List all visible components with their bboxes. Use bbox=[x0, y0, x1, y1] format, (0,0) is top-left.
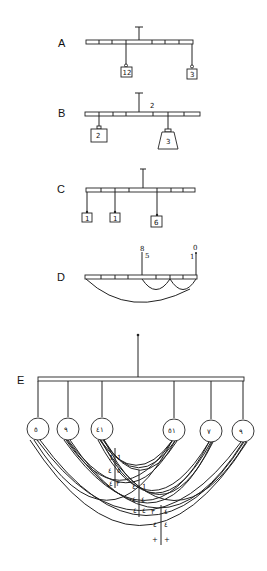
svg-text:٥١: ٥١ bbox=[168, 427, 176, 435]
svg-text:٥: ٥ bbox=[34, 426, 38, 434]
svg-text:2: 2 bbox=[96, 132, 100, 140]
figure-e-pans: ٥ ٩ ٤١ ٥١ ٧ ٩ bbox=[27, 418, 254, 442]
svg-text:٤: ٤ bbox=[133, 507, 137, 515]
svg-text:0: 0 bbox=[193, 244, 197, 252]
svg-text:+: + bbox=[164, 536, 170, 544]
balance-diagrams: A 12 3 B 2 2 3 bbox=[0, 0, 267, 571]
svg-text:٣: ٣ bbox=[151, 508, 155, 516]
svg-text:٤: ٤ bbox=[109, 480, 113, 488]
svg-text:٤: ٤ bbox=[141, 496, 145, 504]
svg-text:1: 1 bbox=[190, 253, 194, 261]
svg-text:٥: ٥ bbox=[117, 467, 121, 475]
figure-b-label: B bbox=[58, 107, 65, 119]
svg-text:٩: ٩ bbox=[64, 426, 68, 434]
figure-d: D 8 5 1 0 bbox=[57, 244, 197, 302]
svg-text:٤: ٤ bbox=[153, 521, 157, 529]
svg-text:8: 8 bbox=[140, 245, 144, 253]
figure-a: A 12 3 bbox=[58, 27, 197, 79]
svg-text:3: 3 bbox=[166, 138, 170, 146]
figure-b-beam-mark: 2 bbox=[150, 102, 154, 110]
svg-text:12: 12 bbox=[123, 69, 132, 77]
svg-text:٤: ٤ bbox=[142, 507, 146, 515]
svg-text:٧: ٧ bbox=[207, 428, 211, 436]
figure-d-large-arc bbox=[86, 279, 190, 302]
figure-d-label: D bbox=[57, 271, 65, 283]
svg-text:1: 1 bbox=[142, 483, 146, 491]
figure-c-beam bbox=[86, 188, 195, 192]
figure-d-beam bbox=[85, 275, 197, 279]
figure-e-beam bbox=[38, 377, 244, 381]
svg-text:٩: ٩ bbox=[239, 428, 243, 436]
figure-a-beam bbox=[86, 40, 193, 44]
figure-e: E ٥ ٩ ٤١ ٥١ ٧ ٩ bbox=[17, 334, 254, 545]
svg-text:1: 1 bbox=[109, 454, 113, 462]
figure-e-label: E bbox=[17, 374, 24, 386]
svg-text:1: 1 bbox=[117, 454, 121, 462]
svg-text:٤: ٤ bbox=[164, 508, 168, 516]
svg-text:٤: ٤ bbox=[132, 483, 136, 491]
svg-text:٣: ٣ bbox=[116, 480, 120, 488]
svg-text:٤١: ٤١ bbox=[96, 426, 104, 434]
figure-c-label: C bbox=[57, 183, 65, 195]
svg-text:3: 3 bbox=[190, 71, 194, 79]
figure-a-label: A bbox=[58, 37, 66, 49]
svg-text:6: 6 bbox=[154, 219, 159, 227]
svg-text:+: + bbox=[152, 536, 158, 544]
figure-b: B 2 2 3 bbox=[58, 93, 200, 149]
figure-c: C 1 1 6 bbox=[57, 169, 195, 227]
figure-b-beam bbox=[85, 112, 200, 116]
svg-text:٤: ٤ bbox=[108, 467, 112, 475]
figure-d-small-arc-1 bbox=[142, 279, 170, 290]
svg-text:٤: ٤ bbox=[132, 496, 136, 504]
figure-d-small-arc-2 bbox=[170, 279, 196, 290]
svg-text:1: 1 bbox=[113, 215, 117, 223]
svg-text:5: 5 bbox=[145, 252, 149, 260]
svg-text:1: 1 bbox=[85, 215, 89, 223]
svg-text:٤: ٤ bbox=[164, 521, 168, 529]
